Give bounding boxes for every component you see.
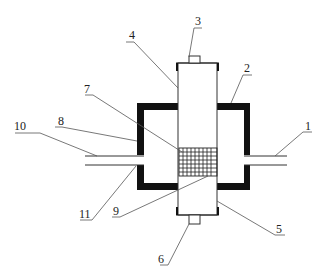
label-7: 7 (84, 82, 90, 96)
column (176, 63, 219, 215)
label-3: 3 (195, 14, 201, 28)
label-4: 4 (129, 28, 135, 42)
bottom-nub (189, 215, 200, 224)
left-pipe (85, 156, 144, 165)
leader-lines (15, 28, 312, 265)
right-pipe (244, 156, 287, 165)
label-6: 6 (158, 252, 164, 266)
label-11: 11 (79, 207, 91, 221)
label-2: 2 (244, 61, 250, 75)
device-diagram: 1 2 3 4 5 6 7 8 9 10 11 (0, 0, 323, 277)
label-5: 5 (276, 222, 282, 236)
label-10: 10 (14, 119, 26, 133)
label-1: 1 (305, 119, 311, 133)
top-nub (189, 56, 200, 63)
label-8: 8 (58, 114, 64, 128)
label-9: 9 (113, 204, 119, 218)
